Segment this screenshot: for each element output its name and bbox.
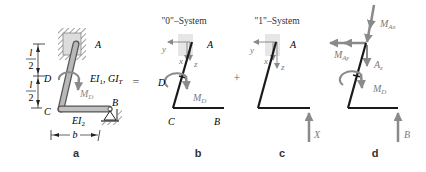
caption-b: b xyxy=(195,147,202,159)
label-b-b: B xyxy=(214,116,220,127)
axis-x-c: x xyxy=(263,56,268,66)
plus-operator: + xyxy=(234,71,241,85)
label-max: MAx xyxy=(379,18,397,31)
dimension-half-upper: l 2 xyxy=(26,47,36,71)
structural-diagram: l 2 l 2 b A D C B EI1, GIT MD EI2 a = xyxy=(0,0,426,172)
label-md-a: MD xyxy=(79,88,93,101)
label-a-c: A xyxy=(289,39,297,50)
label-c-b: C xyxy=(168,116,175,127)
label-reaction-b: B xyxy=(404,129,410,140)
axis-x-b: x xyxy=(178,56,183,66)
title-1-system: "1"–System xyxy=(254,16,300,26)
dimension-horizontal: b xyxy=(51,129,100,141)
equals-operator: = xyxy=(133,75,140,89)
label-a-b: A xyxy=(206,39,214,50)
title-0-system: "0"–System xyxy=(161,16,207,26)
panel-c: "1"–System y x z X A c xyxy=(249,16,321,159)
label-c: C xyxy=(44,106,51,117)
axis-y-c: y xyxy=(249,45,254,55)
axis-z-c: z xyxy=(280,62,285,72)
caption-c: c xyxy=(279,147,285,159)
dim-2-lower: 2 xyxy=(29,92,34,103)
dim-l-lower: l xyxy=(30,79,33,90)
label-may: MAy xyxy=(333,49,350,62)
label-az: Az xyxy=(373,59,383,72)
dim-2: 2 xyxy=(29,60,34,71)
label-force-x: X xyxy=(313,129,321,140)
caption-a: a xyxy=(73,147,80,159)
label-d: D xyxy=(43,73,52,84)
panel-a: l 2 l 2 b A D C B EI1, GIT MD EI2 a xyxy=(26,28,124,159)
caption-d: d xyxy=(372,147,379,159)
panel-b: "0"–System y x z MD A D C B b xyxy=(157,16,224,159)
label-a: A xyxy=(94,39,102,50)
dim-b: b xyxy=(73,129,78,140)
label-md-b: MD xyxy=(192,92,206,105)
label-stiffness-upper: EI1, GIT xyxy=(89,73,124,86)
label-md-d: MD xyxy=(372,83,386,96)
panel-d: MAx MAy Az MD B d xyxy=(330,5,410,159)
dim-l: l xyxy=(30,47,33,58)
label-stiffness-lower: EI2 xyxy=(71,115,85,128)
dimension-half-lower: l 2 xyxy=(26,79,36,103)
axis-z-b: z xyxy=(193,59,198,69)
label-d-b: D xyxy=(157,77,166,88)
axis-y-b: y xyxy=(161,44,166,54)
label-b: B xyxy=(112,97,118,108)
